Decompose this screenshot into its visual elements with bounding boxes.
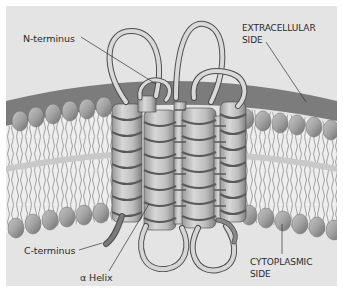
alpha-helix-label: α Helix — [80, 272, 112, 283]
cytoplasmic-label-line2: SIDE — [250, 269, 271, 280]
extracellular-label-line2: SIDE — [242, 35, 263, 46]
membrane-illustration — [6, 6, 337, 286]
extracellular-label-line1: EXTRACELLULAR — [242, 23, 316, 34]
membrane-protein-figure: N-terminus EXTRACELLULAR SIDE C-terminus… — [6, 6, 337, 286]
cytoplasmic-label-line1: CYTOPLASMIC — [250, 257, 312, 268]
n-terminus-label: N-terminus — [23, 33, 75, 44]
c-terminus-label: C-terminus — [24, 245, 75, 256]
